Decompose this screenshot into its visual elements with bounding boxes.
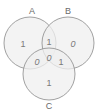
region-a-only: 1: [20, 39, 25, 49]
venn-diagram: A B C 1 0 1 1 0 1 0: [0, 0, 99, 111]
region-a-and-c: 0: [34, 57, 39, 67]
region-a-and-b: 1: [46, 37, 51, 47]
label-a: A: [29, 6, 35, 16]
region-b-only: 0: [70, 39, 75, 49]
region-c-only: 1: [46, 78, 51, 88]
label-c: C: [46, 101, 53, 111]
region-a-and-b-and-c: 0: [46, 53, 51, 63]
label-b: B: [65, 6, 71, 16]
region-b-and-c: 1: [58, 57, 63, 67]
